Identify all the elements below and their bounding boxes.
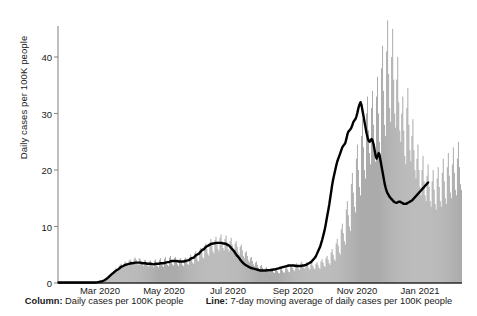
bar bbox=[252, 261, 253, 283]
bar bbox=[245, 252, 246, 283]
bar bbox=[362, 119, 363, 283]
bar bbox=[376, 97, 377, 283]
bar bbox=[270, 269, 271, 283]
bar bbox=[433, 170, 434, 283]
bar bbox=[275, 270, 276, 283]
bar bbox=[182, 265, 183, 283]
bar bbox=[346, 210, 347, 283]
bar bbox=[443, 159, 444, 283]
bar bbox=[390, 122, 391, 283]
bar bbox=[222, 241, 223, 283]
bar bbox=[138, 265, 139, 283]
bar bbox=[403, 130, 404, 283]
bar bbox=[404, 156, 405, 283]
bar bbox=[153, 267, 154, 283]
bar bbox=[133, 265, 134, 283]
bar bbox=[274, 273, 275, 283]
bar bbox=[381, 68, 382, 283]
bar bbox=[225, 239, 226, 283]
bar bbox=[236, 241, 237, 283]
bar bbox=[160, 258, 161, 283]
bar bbox=[284, 273, 285, 283]
bar bbox=[335, 261, 336, 283]
bar bbox=[434, 190, 435, 283]
bar bbox=[234, 252, 235, 283]
bar bbox=[425, 195, 426, 283]
bar bbox=[375, 162, 376, 283]
bar bbox=[439, 187, 440, 283]
covid-daily-cases-chart: Daily cases per 100K people 0 10 20 30 4… bbox=[0, 0, 477, 316]
bar bbox=[173, 265, 174, 283]
bar bbox=[212, 246, 213, 283]
bar bbox=[324, 266, 325, 283]
bar bbox=[372, 91, 373, 283]
bar bbox=[337, 239, 338, 283]
bar bbox=[283, 272, 284, 283]
bar bbox=[442, 173, 443, 283]
bar bbox=[186, 261, 187, 283]
bar bbox=[308, 268, 309, 283]
bar bbox=[415, 170, 416, 283]
bar bbox=[118, 271, 119, 283]
bar bbox=[273, 272, 274, 283]
bar bbox=[233, 250, 234, 283]
bar bbox=[377, 77, 378, 283]
bar bbox=[420, 187, 421, 283]
bar bbox=[322, 259, 323, 283]
legend-column-key: Column: bbox=[25, 296, 63, 306]
bar bbox=[437, 178, 438, 283]
bar bbox=[421, 195, 422, 283]
bar bbox=[285, 268, 286, 283]
y-tick-label: 30 bbox=[41, 108, 52, 119]
bar bbox=[424, 181, 425, 283]
bar bbox=[394, 114, 395, 284]
bar bbox=[351, 184, 352, 283]
bar bbox=[408, 125, 409, 283]
bar bbox=[304, 269, 305, 283]
bar bbox=[313, 266, 314, 283]
bar bbox=[367, 97, 368, 283]
bar bbox=[409, 150, 410, 283]
bar bbox=[318, 265, 319, 283]
bar bbox=[277, 271, 278, 283]
bar bbox=[172, 264, 173, 283]
bar bbox=[417, 159, 418, 283]
bar bbox=[396, 80, 397, 283]
bar bbox=[344, 241, 345, 283]
bar bbox=[166, 262, 167, 283]
bar bbox=[228, 249, 229, 283]
bar bbox=[426, 201, 427, 283]
bar bbox=[307, 265, 308, 283]
legend-line-key: Line: bbox=[206, 296, 228, 306]
bar bbox=[235, 243, 236, 283]
bar bbox=[196, 256, 197, 283]
bar bbox=[177, 264, 178, 283]
bar bbox=[383, 91, 384, 283]
bar bbox=[242, 250, 243, 283]
bar bbox=[453, 147, 454, 283]
bar bbox=[251, 257, 252, 283]
bar bbox=[407, 88, 408, 283]
bar bbox=[418, 145, 419, 283]
bar bbox=[320, 269, 321, 283]
bar bbox=[197, 260, 198, 283]
bar bbox=[143, 266, 144, 283]
bar bbox=[272, 271, 273, 283]
bar bbox=[400, 142, 401, 283]
bar bbox=[231, 238, 232, 283]
bar bbox=[342, 224, 343, 283]
bar bbox=[354, 207, 355, 283]
bar bbox=[123, 268, 124, 283]
bar bbox=[401, 114, 402, 284]
bar bbox=[349, 227, 350, 284]
bar bbox=[163, 267, 164, 283]
bar bbox=[386, 51, 387, 283]
bar bbox=[370, 164, 371, 283]
bar bbox=[371, 108, 372, 283]
bar bbox=[183, 266, 184, 283]
bar bbox=[358, 170, 359, 283]
bar-series bbox=[58, 20, 462, 283]
bar bbox=[122, 266, 123, 283]
bar bbox=[366, 114, 367, 284]
bar bbox=[128, 266, 129, 283]
